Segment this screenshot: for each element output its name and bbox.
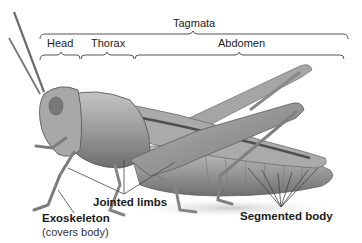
eye	[49, 97, 63, 115]
thorax-bracket	[81, 52, 134, 59]
antennae	[9, 12, 44, 94]
segmented-body-label: Segmented body	[240, 210, 333, 222]
exoskeleton-sublabel: (covers body)	[42, 226, 109, 238]
abdomen-bracket	[135, 52, 344, 59]
jointed-limbs-label: Jointed limbs	[93, 196, 167, 208]
tagmata-label: Tagmata	[173, 17, 215, 29]
grasshopper-diagram: Tagmata Head Thorax Abdomen Jointed limb…	[0, 0, 362, 243]
head-label: Head	[47, 37, 73, 49]
tagmata-bracket	[40, 31, 348, 39]
exoskeleton-label: Exoskeleton	[42, 212, 110, 224]
abdomen-label: Abdomen	[218, 37, 265, 49]
exoskeleton-leader	[58, 190, 74, 213]
thorax-label: Thorax	[91, 37, 125, 49]
head-bracket	[40, 52, 80, 60]
